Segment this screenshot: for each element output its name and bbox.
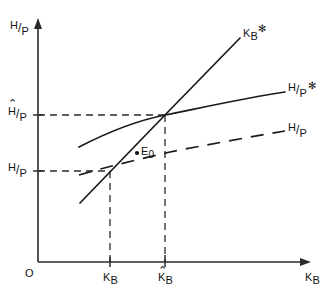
x-tick-left-sub: B [110, 274, 117, 286]
y-tick-upper-numerator: H [8, 105, 16, 117]
curve-label-hp-denominator: P [299, 127, 306, 139]
curve-label-kb-star: KB✻ [243, 28, 266, 39]
hp-curve-path [79, 131, 285, 175]
equilibrium-point-dot [135, 151, 139, 155]
y-tick-lower-denominator: P [19, 167, 26, 179]
y-axis-title-numerator: H [10, 19, 18, 31]
curve-label-hp-star-denominator: P [299, 87, 306, 99]
curve-label-hp-numerator: H [288, 121, 296, 133]
diagram-canvas [0, 0, 331, 299]
y-tick-upper-denominator: P [19, 111, 26, 123]
figure-container: H/P KB O ⌃H/P H/P KB ⌃KB KB✻ [0, 0, 331, 299]
kb-star-curve-path [80, 38, 240, 203]
x-tick-right-sub: B [165, 274, 172, 286]
curve-label-hp-star-numerator: H [288, 81, 296, 93]
x-tick-label-left: KB [103, 272, 118, 283]
y-axis-title-denominator: P [21, 25, 28, 37]
hp-star-curve-path [79, 92, 285, 147]
y-tick-label-upper: ⌃H/P [8, 108, 27, 120]
x-axis-title: KB [305, 272, 320, 283]
x-tick-label-right: ⌃KB [158, 272, 173, 283]
x-axis-arrow-icon [300, 258, 311, 266]
asterisk-icon: ✻ [258, 23, 266, 34]
curve-label-hp: H/P [288, 124, 307, 136]
y-axis-title: H/P [10, 22, 29, 34]
y-tick-lower-numerator: H [8, 161, 16, 173]
origin-label: O [25, 268, 34, 279]
x-axis-title-sub: B [312, 274, 319, 286]
asterisk-icon: ✻ [308, 80, 316, 91]
y-tick-label-lower: H/P [8, 164, 27, 176]
curve-label-hp-star: H/P✻ [288, 84, 315, 96]
y-axis-arrow-icon [34, 18, 42, 29]
curve-label-kb-star-sub: B [250, 30, 257, 42]
annotation-label-e0: E0 [141, 146, 154, 157]
annotation-e0-sub: 0 [148, 149, 154, 160]
